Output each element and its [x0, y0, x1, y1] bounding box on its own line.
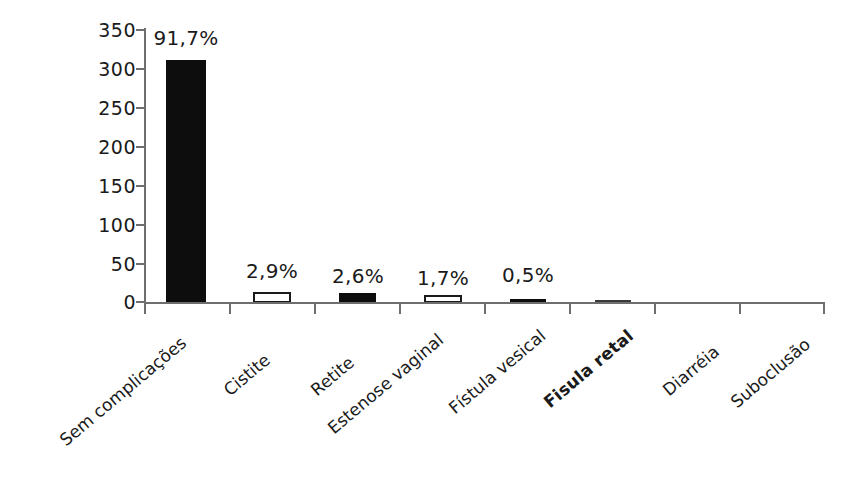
- category-label-suboclusao: Suboclusão: [728, 335, 813, 411]
- y-tick-label-300: 300: [84, 60, 136, 79]
- x-tick-mark-3: [399, 304, 401, 314]
- category-label-diarreia: Diarréia: [660, 343, 722, 399]
- x-tick-mark-2: [314, 304, 316, 314]
- x-tick-mark-0: [144, 304, 146, 314]
- y-tick-label-0: 0: [84, 293, 136, 312]
- y-tick-label-100: 100: [84, 216, 136, 235]
- category-label-retite: Retite: [308, 354, 357, 399]
- y-tick-mark-300: [136, 68, 145, 70]
- bar-chart: 350 300 250 200 150 100 50 0 91,7% 2,9% …: [0, 0, 865, 484]
- y-tick-label-150: 150: [84, 177, 136, 196]
- y-tick-250: 250: [78, 99, 136, 118]
- value-label-cistite: 2,9%: [237, 261, 307, 281]
- y-tick-0: 0: [78, 293, 136, 312]
- x-tick-mark-6: [654, 304, 656, 314]
- value-label-estenose-vaginal: 1,7%: [408, 268, 478, 288]
- x-tick-mark-8: [823, 304, 825, 314]
- y-tick-mark-350: [136, 29, 145, 31]
- value-label-retite: 2,6%: [323, 266, 393, 286]
- y-tick-350: 350: [78, 21, 136, 40]
- y-tick-100: 100: [78, 216, 136, 235]
- bar-sem-complicacoes: [166, 60, 206, 303]
- category-label-sem-complicacoes: Sem complicações: [57, 334, 189, 449]
- category-label-estenose-vaginal: Estenose vaginal: [325, 331, 447, 437]
- x-tick-mark-7: [739, 304, 741, 314]
- value-label-fistula-vesical: 0,5%: [493, 265, 563, 285]
- y-tick-mark-150: [136, 185, 145, 187]
- x-tick-mark-5: [569, 304, 571, 314]
- y-tick-mark-250: [136, 107, 145, 109]
- y-tick-50: 50: [78, 255, 136, 274]
- category-label-cistite: Cistite: [221, 351, 273, 399]
- y-tick-mark-50: [136, 263, 145, 265]
- y-tick-200: 200: [78, 138, 136, 157]
- y-tick-label-350: 350: [84, 21, 136, 40]
- y-tick-label-50: 50: [84, 255, 136, 274]
- y-tick-mark-200: [136, 146, 145, 148]
- y-tick-label-250: 250: [84, 99, 136, 118]
- y-tick-300: 300: [78, 60, 136, 79]
- y-tick-label-200: 200: [84, 138, 136, 157]
- x-tick-mark-4: [484, 304, 486, 314]
- category-label-fistula-vesical: Fístula vesical: [446, 327, 549, 417]
- category-label-fisula-retal: Fisula retal: [541, 327, 637, 411]
- value-label-sem-complicacoes: 91,7%: [151, 28, 221, 48]
- x-tick-mark-1: [229, 304, 231, 314]
- y-tick-150: 150: [78, 177, 136, 196]
- y-tick-mark-100: [136, 224, 145, 226]
